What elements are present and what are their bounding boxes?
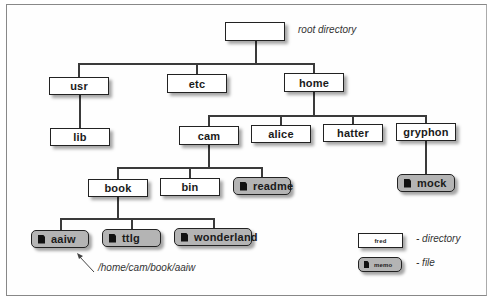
document-icon [364, 261, 369, 268]
legend-file-sample: memo [358, 257, 402, 272]
path-annotation: /home/cam/book/aaiw [98, 262, 195, 273]
legend-file-description: - file [416, 257, 435, 268]
legend-directory-sample: fred [358, 233, 403, 248]
legend-label: memo [374, 262, 392, 268]
legend-label: fred [374, 238, 386, 244]
legend-directory-description: - directory [416, 233, 460, 244]
